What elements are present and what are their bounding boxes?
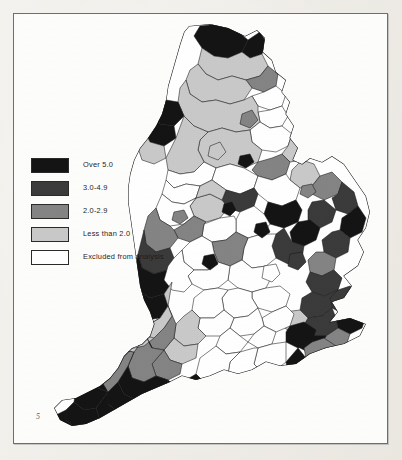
legend-item-excluded[interactable]: Excluded from analysis <box>31 246 191 268</box>
map-legend: Over 5.0 3.0-4.9 2.0-2.9 Less than 2.0 E… <box>31 154 191 269</box>
legend-item-less-than-2-0[interactable]: Less than 2.0 <box>31 223 191 245</box>
legend-item-2-0-to-2-9[interactable]: 2.0-2.9 <box>31 200 191 222</box>
legend-swatch-less-than-2-0 <box>31 227 69 242</box>
map-plate: Over 5.0 3.0-4.9 2.0-2.9 Less than 2.0 E… <box>13 13 388 444</box>
legend-label-less-than-2-0: Less than 2.0 <box>83 230 130 237</box>
legend-label-2-0-to-2-9: 2.0-2.9 <box>83 207 108 214</box>
legend-label-excluded: Excluded from analysis <box>83 253 164 260</box>
figure-root: Over 5.0 3.0-4.9 2.0-2.9 Less than 2.0 E… <box>0 0 402 460</box>
legend-swatch-2-0-to-2-9 <box>31 204 69 219</box>
legend-item-3-0-to-4-9[interactable]: 3.0-4.9 <box>31 177 191 199</box>
page-number-marker: 5 <box>36 412 40 421</box>
legend-label-3-0-to-4-9: 3.0-4.9 <box>83 184 108 191</box>
legend-swatch-excluded <box>31 250 69 265</box>
legend-swatch-3-0-to-4-9 <box>31 181 69 196</box>
legend-item-over-5-0[interactable]: Over 5.0 <box>31 154 191 176</box>
legend-swatch-over-5-0 <box>31 158 69 173</box>
legend-label-over-5-0: Over 5.0 <box>83 161 113 168</box>
